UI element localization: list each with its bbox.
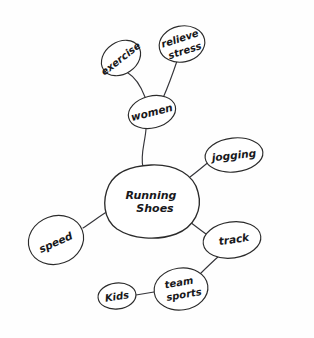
- connector-women-to-exercise: [128, 73, 145, 97]
- connector-center-to-women: [142, 129, 146, 167]
- mindmap-drawing: Running Shoes women exercise relieve str…: [0, 0, 314, 338]
- node-exercise[interactable]: exercise: [95, 33, 148, 83]
- mindmap-canvas: Running Shoes women exercise relieve str…: [0, 0, 314, 338]
- node-kids[interactable]: Kids: [97, 281, 138, 311]
- running-shoes-label-line2: Shoes: [136, 202, 174, 215]
- connector-track-to-team-sports: [198, 256, 219, 276]
- node-jogging[interactable]: jogging: [203, 135, 264, 175]
- connector-center-to-speed: [83, 211, 108, 228]
- node-running-shoes[interactable]: Running Shoes: [105, 165, 200, 238]
- node-women[interactable]: women: [125, 91, 179, 134]
- connector-team-sports-to-kids: [136, 292, 154, 295]
- running-shoes-label-line1: Running: [126, 189, 177, 202]
- connector-women-to-relieve-stress: [163, 61, 177, 98]
- node-speed[interactable]: speed: [21, 208, 90, 272]
- node-relieve-stress[interactable]: relieve stress: [156, 22, 208, 67]
- node-track[interactable]: track: [201, 218, 263, 262]
